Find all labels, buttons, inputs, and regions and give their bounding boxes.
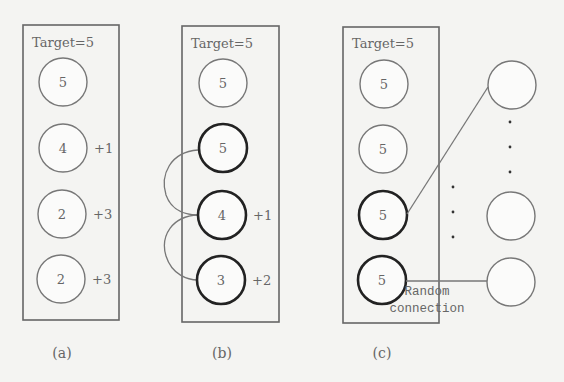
panel-b-node-1-value: 5: [219, 76, 227, 91]
panel-c-node-1-value: 5: [380, 77, 388, 92]
panel-b-node-4-delta: +2: [252, 273, 271, 288]
external-node-2: [487, 192, 535, 240]
panel-b-node-2-value: 5: [219, 141, 227, 156]
external-node-3: [487, 258, 535, 306]
diagram-canvas: Target=5 5 4 +1 2 +3 2 +3 (a) Target=5 5…: [0, 0, 564, 382]
panel-b-caption: (b): [212, 345, 232, 361]
external-node-1: [488, 61, 536, 109]
panel-b: Target=5 5 5 4 +1 3 +2 (b): [164, 26, 279, 361]
panel-c-node-3-value: 5: [379, 208, 387, 223]
panel-a-node-4-delta: +3: [92, 272, 111, 287]
panel-a-node-3-value: 2: [58, 207, 66, 222]
panel-b-node-3-delta: +1: [253, 208, 272, 223]
panel-a-node-4-value: 2: [57, 272, 65, 287]
panel-b-node-3-value: 4: [218, 208, 226, 223]
random-connection-label-line2: connection: [389, 302, 464, 316]
ellipsis-right-icon: [509, 121, 512, 174]
panel-a-node-2-delta: +1: [94, 141, 113, 156]
panel-c-caption: (c): [373, 345, 392, 361]
panel-b-title: Target=5: [191, 36, 253, 51]
panel-c-node-2-value: 5: [379, 142, 387, 157]
panel-c-node-4-value: 5: [378, 273, 386, 288]
panel-a-node-3-delta: +3: [93, 207, 112, 222]
random-connection-upper: [407, 87, 488, 214]
ellipsis-middle-icon: [452, 186, 455, 239]
panel-a: Target=5 5 4 +1 2 +3 2 +3 (a): [23, 25, 119, 361]
panel-c-title: Target=5: [352, 36, 414, 51]
panel-a-node-1-value: 5: [59, 75, 67, 90]
panel-a-caption: (a): [52, 345, 71, 361]
panel-a-node-2-value: 4: [59, 141, 67, 156]
panel-c: Target=5 5 5 5 5 Random connection (: [343, 27, 536, 361]
panel-b-node-4-value: 3: [217, 273, 225, 288]
panel-a-title: Target=5: [32, 35, 94, 50]
random-connection-label-line1: Random: [404, 285, 449, 299]
panel-b-link-2-3: [164, 150, 198, 215]
